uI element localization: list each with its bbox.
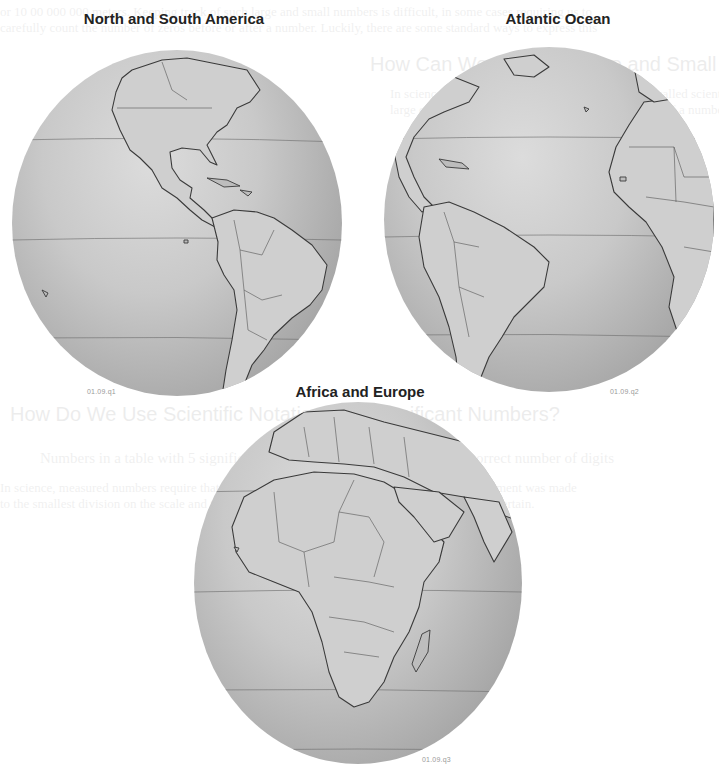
- map-americas-icon: [12, 50, 342, 396]
- figure-id-atlantic: 01.09.q2: [610, 388, 639, 395]
- map-africa-europe-icon: [194, 402, 522, 764]
- map-atlantic-icon: [384, 47, 714, 392]
- figure-id-americas: 01.09.q1: [87, 388, 116, 395]
- globe-americas: [12, 50, 342, 396]
- figure-id-africa-europe: 01.09.q3: [422, 756, 451, 763]
- globe-africa-europe: [194, 402, 522, 764]
- figure-title-atlantic: Atlantic Ocean: [505, 10, 610, 27]
- figure-title-africa-europe: Africa and Europe: [295, 383, 424, 400]
- figure-title-americas: North and South America: [84, 10, 264, 27]
- globe-atlantic: [384, 47, 714, 392]
